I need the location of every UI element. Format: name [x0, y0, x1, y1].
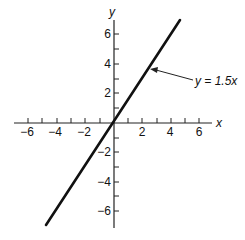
x-tick-label: −6 [20, 125, 34, 139]
chart: −6 −4 −2 2 4 6 6 4 2 −2 −4 −6 x y y = 1.… [0, 0, 245, 240]
y-tick-label: −2 [97, 145, 111, 159]
x-tick-label: 2 [139, 125, 146, 139]
y-tick-label: 4 [104, 57, 111, 71]
x-axis-label: x [215, 116, 223, 130]
x-tick-label: 4 [167, 125, 174, 139]
y-tick-label: −4 [97, 175, 111, 189]
y-tick-label: −6 [97, 204, 111, 218]
equation-label: y = 1.5x [194, 74, 238, 88]
annotation-arrow [156, 70, 193, 80]
arrowhead-icon [150, 67, 158, 73]
y-tick-label: 6 [104, 27, 111, 41]
x-tick-label: −4 [48, 125, 62, 139]
x-tick-label: −2 [77, 125, 91, 139]
y-tick-label: 2 [104, 86, 111, 100]
x-tick-label: 6 [196, 125, 203, 139]
y-axis-label: y [108, 5, 116, 19]
